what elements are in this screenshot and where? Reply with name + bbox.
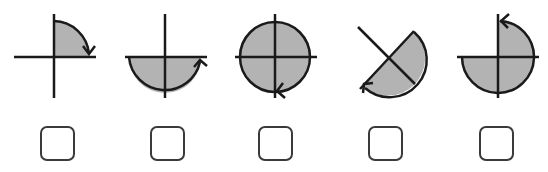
checkbox-option-1[interactable] (40, 126, 75, 161)
rotation-figure-1: Quarter turn clockwise (90°) (0, 0, 110, 110)
figure-5-label: Three-quarter turn (270°) (438, 110, 439, 111)
figure-4-label: Half turn on diagonal (180°) (330, 110, 331, 111)
checkbox-option-4[interactable] (368, 126, 403, 161)
diagonal-half-turn-icon (330, 0, 440, 110)
checkbox-option-3[interactable] (258, 126, 293, 161)
figure-1-label: Quarter turn clockwise (90°) (0, 110, 1, 111)
rotation-figure-3: Full turn (360°) (220, 0, 330, 110)
rotation-figure-2: Half turn (180°) (110, 0, 220, 110)
half-turn-icon (110, 0, 220, 110)
three-quarter-turn-icon (438, 0, 548, 110)
quarter-turn-icon (0, 0, 110, 110)
checkbox-option-5[interactable] (479, 126, 514, 161)
rotation-figure-5: Three-quarter turn (270°) (438, 0, 548, 110)
checkbox-option-2[interactable] (150, 126, 185, 161)
figure-2-label: Half turn (180°) (110, 110, 111, 111)
figure-3-label: Full turn (360°) (220, 110, 221, 111)
rotation-figure-4: Half turn on diagonal (180°) (330, 0, 440, 110)
full-turn-icon (220, 0, 330, 110)
